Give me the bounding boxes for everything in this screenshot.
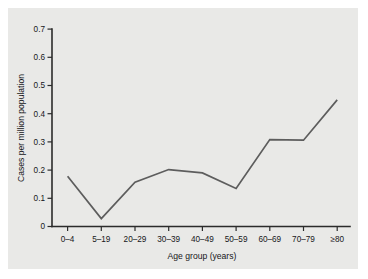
line-chart: 0 0.1 0.2 0.3 0.4 0.5 0.6 0.7 0–4 5–19 2… (0, 0, 368, 279)
y-tick-label: 0 (40, 222, 45, 231)
x-axis-title: Age group (years) (168, 251, 237, 261)
y-tick-label: 0.2 (34, 166, 46, 175)
x-tick-label-60-69: 60–69 (258, 235, 281, 244)
x-tick-label-5-19: 5–19 (92, 235, 111, 244)
x-tick-labels: 0–4 5–19 20–29 30–39 40–49 50–59 60–69 7… (61, 235, 345, 244)
x-tick-label-70-79: 70–79 (292, 235, 315, 244)
x-tick-label-40-49: 40–49 (191, 235, 214, 244)
y-tick-label: 0.6 (34, 53, 46, 62)
y-tick-label: 0.4 (34, 110, 46, 119)
x-tick-label-30-39: 30–39 (157, 235, 180, 244)
x-tick-label-50-59: 50–59 (225, 235, 248, 244)
y-tick-label: 0.5 (34, 81, 46, 90)
data-series-line (68, 100, 338, 219)
y-tick-label: 0.7 (34, 25, 46, 34)
y-axis-title: Cases per million population (16, 74, 26, 182)
x-tick-label-20-29: 20–29 (124, 235, 147, 244)
y-tick-labels: 0 0.1 0.2 0.3 0.4 0.5 0.6 0.7 (34, 25, 46, 231)
x-tick-label-80-plus: ≥80 (330, 235, 344, 244)
y-tick-label: 0.3 (34, 138, 46, 147)
x-tick-label-0-4: 0–4 (61, 235, 75, 244)
y-tick-label: 0.1 (34, 194, 46, 203)
figure-canvas: 0 0.1 0.2 0.3 0.4 0.5 0.6 0.7 0–4 5–19 2… (0, 0, 368, 279)
